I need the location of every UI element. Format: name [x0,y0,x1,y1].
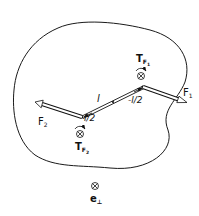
label-neg-half-l: -l/2 [128,95,143,105]
force-couple-diagram: F1 F2 l l/2 -l/2 TF1 TF2 [0,0,199,216]
circled-cross-icon [77,131,84,138]
force-f1-arrow [143,87,187,103]
curved-arrow-icon [75,126,85,129]
label-e-perp: e⊥ [90,193,102,205]
circled-cross-icon [138,73,145,80]
curved-arrow-icon [136,68,146,71]
label-l: l [97,93,100,104]
label-half-l: l/2 [84,113,96,123]
torque-tf1: TF1 [136,53,150,80]
circled-cross-icon [92,183,99,190]
force-f2-arrow [35,100,82,117]
label-t-f2: TF2 [75,141,89,155]
midpoint [112,101,114,103]
e-perp-indicator: e⊥ [90,183,102,206]
label-f2: F2 [38,116,48,128]
torque-tf2: TF2 [75,126,89,154]
label-f1: F1 [183,87,193,99]
label-t-f1: TF1 [136,53,150,67]
